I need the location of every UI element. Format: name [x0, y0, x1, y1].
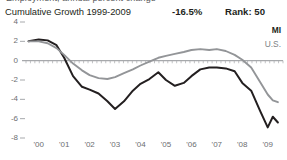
y-tick-label: -8 [2, 133, 18, 142]
series-line-u-s- [29, 41, 278, 102]
x-tick-label: '01 [52, 140, 76, 149]
x-tick-label: '02 [78, 140, 102, 149]
clipped-caption: Employment, annual percent change [6, 0, 156, 3]
x-tick-label: '04 [129, 140, 153, 149]
line-chart-svg [0, 18, 287, 160]
y-tick-label: 0 [2, 56, 18, 65]
page-title: Cumulative Growth 1999-2009 [5, 6, 131, 17]
x-tick-label: '03 [103, 140, 127, 149]
state-rank: Rank: 50 [225, 6, 265, 17]
x-tick-label: '00 [27, 140, 51, 149]
y-tick-label: -6 [2, 114, 18, 123]
plot-area: 420-2-4-6-8 '00'01'02'03'04'05'06'07'08'… [0, 18, 287, 160]
x-tick-label: '07 [205, 140, 229, 149]
x-tick-label: '09 [256, 140, 280, 149]
y-tick-label: -2 [2, 75, 18, 84]
y-tick-label: 4 [2, 17, 18, 26]
x-tick-label: '05 [154, 140, 178, 149]
series-line-mi [29, 39, 278, 127]
y-tick-label: 2 [2, 36, 18, 45]
cumulative-growth-value: -16.5% [172, 6, 202, 17]
y-tick-label: -4 [2, 94, 18, 103]
x-tick-label: '08 [230, 140, 254, 149]
x-tick-label: '06 [179, 140, 203, 149]
chart-panel: Employment, annual percent change Cumula… [0, 0, 287, 160]
